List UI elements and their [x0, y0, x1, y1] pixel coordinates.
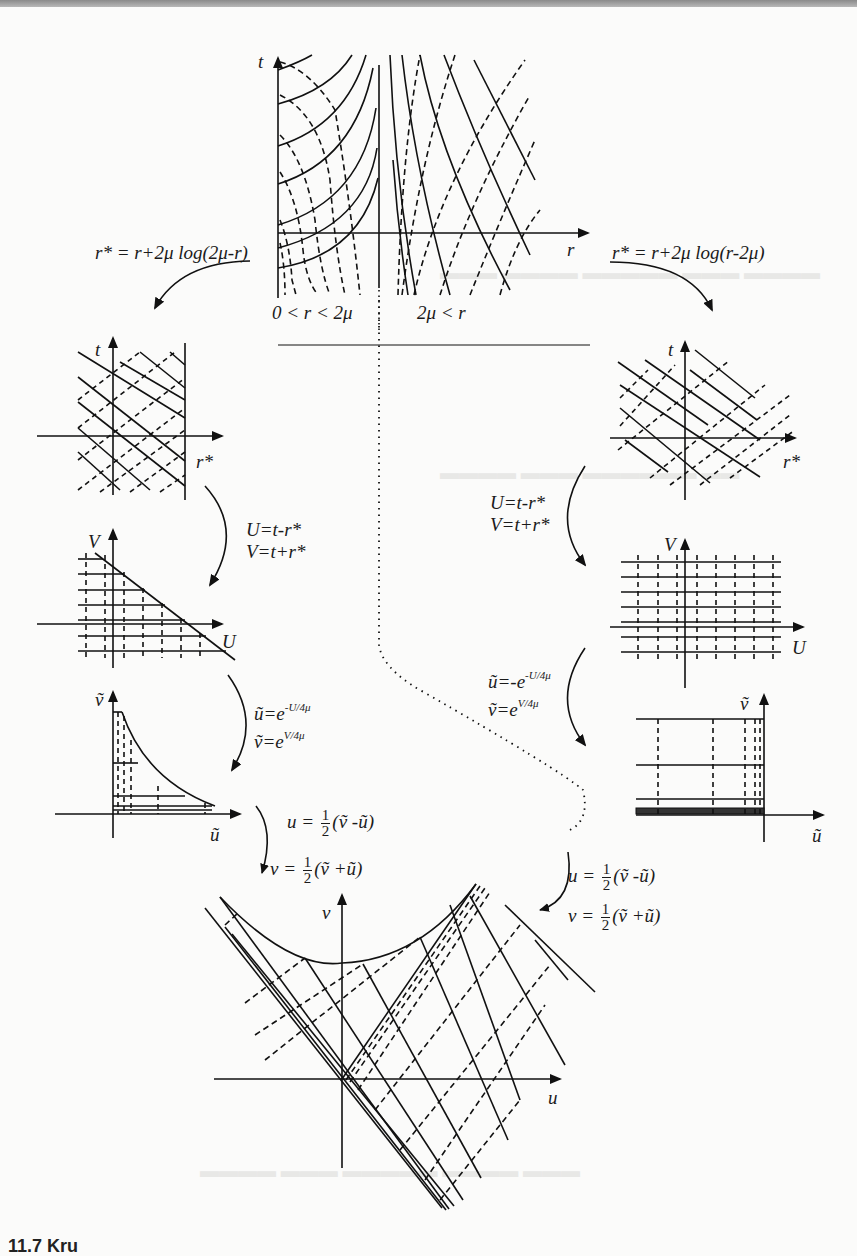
right-p1-axis-v: t [668, 340, 673, 360]
region-exterior-label: 2μ < r [417, 303, 466, 323]
right-panel-tortoise [610, 342, 795, 500]
right-step3-arrow [540, 852, 569, 910]
left-p1-axis-v: t [95, 340, 100, 360]
right-step3-v: v = 12(ṽ +ũ) [568, 902, 660, 933]
dotted-separator [379, 300, 585, 830]
left-step2-line2: ṽ=eV/4μ [254, 725, 304, 752]
top-axis-t-label: t [258, 52, 263, 72]
right-step2-line2: ṽ=eV/4μ [488, 693, 538, 720]
arrow-to-left-branch [155, 261, 250, 308]
right-p1-axis-h: r* [783, 452, 800, 472]
figure-caption: 11.7 Kru [8, 1236, 78, 1256]
bottom-axis-u-label: u [548, 1088, 558, 1108]
top-axis-r-label: r [567, 240, 574, 260]
bottom-panel-kruskal [205, 884, 595, 1210]
right-step2-arrow [568, 648, 586, 745]
right-panel-uv [610, 540, 803, 688]
right-step3-u: u = 12(ṽ -ũ) [568, 862, 655, 893]
arrow-to-right-branch [610, 262, 712, 310]
left-p3-axis-v: ṽ [95, 690, 103, 710]
left-p2-axis-h: U [222, 632, 236, 652]
region-interior-label: 0 < r < 2μ [272, 303, 353, 323]
right-step2-line1: ũ=-e-U/4μ [488, 665, 551, 692]
left-panel-tilde [55, 692, 240, 838]
right-tortoise-formula: r* = r+2μ log(r-2μ) [612, 243, 765, 263]
left-step1-arrow [205, 486, 226, 585]
right-p3-axis-v: ṽ [740, 694, 748, 714]
left-step3-arrow [256, 806, 267, 873]
left-step2-arrow [228, 675, 246, 770]
left-p3-axis-h: ũ [210, 825, 220, 845]
right-step1-arrow [568, 466, 586, 565]
right-step1-line2: V=t+r* [490, 515, 549, 535]
left-step3-u: u = 12(ṽ -ũ) [287, 808, 374, 839]
bottom-axis-v-label: v [322, 903, 330, 923]
left-step3-v: v = 12(ṽ +ũ) [270, 855, 362, 886]
left-panel-uv [37, 530, 235, 668]
right-p2-axis-h: U [792, 638, 806, 658]
left-tortoise-formula: r* = r+2μ log(2μ-r) [95, 243, 248, 263]
right-p3-axis-h: ũ [812, 826, 822, 846]
left-step1-line1: U=t-r* [246, 520, 301, 540]
left-panel-tortoise [37, 338, 222, 500]
right-panel-tilde [636, 695, 823, 842]
left-step1-line2: V=t+r* [246, 542, 305, 562]
right-step1-line1: U=t-r* [490, 493, 545, 513]
right-p2-axis-v: V [664, 535, 676, 555]
left-step2-line1: ũ=e-U/4μ [254, 697, 310, 724]
left-p1-axis-h: r* [196, 452, 213, 472]
left-p2-axis-v: V [88, 532, 100, 552]
